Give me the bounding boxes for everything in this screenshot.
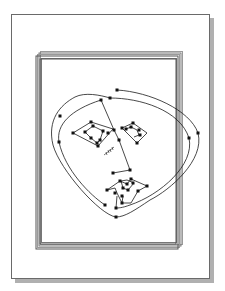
illustration-canvas — [0, 0, 225, 291]
